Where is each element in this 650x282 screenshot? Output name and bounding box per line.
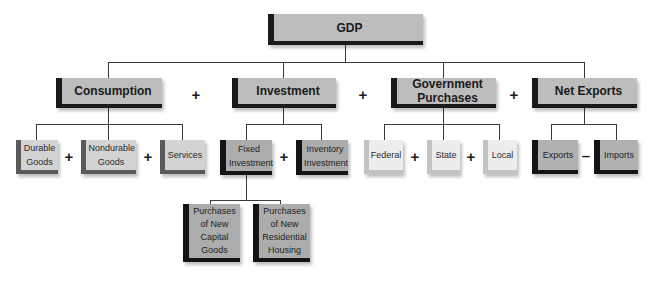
connector-netexports-up <box>584 62 585 78</box>
connector-level1-bar <box>108 62 585 63</box>
net-exports-label: Net Exports <box>555 84 622 98</box>
connector-government-down <box>443 108 444 124</box>
durable-goods-label: Durable Goods <box>24 141 56 169</box>
plus-operator: + <box>408 149 422 165</box>
connector-inventory-up <box>321 124 322 140</box>
services-label: Services <box>168 148 203 162</box>
connector-durable-up <box>36 124 37 140</box>
connector-government-up <box>443 62 444 78</box>
exports-label: Exports <box>543 148 574 162</box>
local-label: Local <box>492 148 514 162</box>
plus-operator: + <box>62 149 76 165</box>
net-exports-box: Net Exports <box>532 78 637 108</box>
connector-state-up <box>443 124 444 140</box>
connector-investment-bar <box>246 124 322 125</box>
connector-gdp-down <box>345 45 346 62</box>
residential-housing-box: Purchases of New Residential Housing <box>253 204 310 262</box>
services-box: Services <box>160 140 205 174</box>
gdp-label: GDP <box>336 21 362 35</box>
connector-imports-up <box>616 124 617 140</box>
plus-operator: + <box>507 87 521 103</box>
plus-operator: + <box>189 87 203 103</box>
connector-services-up <box>182 124 183 140</box>
plus-operator: + <box>277 149 291 165</box>
connector-local-up <box>499 124 500 140</box>
connector-federal-up <box>384 124 385 140</box>
connector-consumption-bar <box>36 124 183 125</box>
connector-consumption-down <box>108 108 109 124</box>
connector-investment-up <box>283 62 284 78</box>
connector-fixed-down <box>246 175 247 200</box>
connector-consumption-up <box>108 62 109 78</box>
investment-label: Investment <box>256 84 319 98</box>
inventory-investment-box: Inventory Investment <box>296 140 348 175</box>
gdp-box: GDP <box>268 14 423 45</box>
minus-operator: – <box>579 148 593 164</box>
consumption-box: Consumption <box>56 78 162 108</box>
durable-goods-box: Durable Goods <box>16 140 58 174</box>
fixed-investment-label: Fixed Investment <box>229 142 269 170</box>
plus-operator: + <box>356 87 370 103</box>
government-purchases-box: Government Purchases <box>391 78 496 108</box>
imports-label: Imports <box>604 148 634 162</box>
state-box: State <box>427 140 460 174</box>
fixed-investment-box: Fixed Investment <box>220 140 272 175</box>
federal-label: Federal <box>371 148 402 162</box>
government-purchases-label: Government Purchases <box>408 77 488 105</box>
residential-housing-label: Purchases of New Residential Housing <box>262 205 308 257</box>
exports-box: Exports <box>532 140 578 174</box>
nondurable-goods-label: Nondurable Goods <box>89 141 134 169</box>
connector-nondurable-up <box>108 124 109 140</box>
connector-fixed-up <box>246 124 247 140</box>
connector-fixed-bar <box>210 200 281 201</box>
plus-operator: + <box>464 149 478 165</box>
connector-netexports-down <box>584 108 585 124</box>
inventory-investment-label: Inventory Investment <box>304 142 346 170</box>
state-label: State <box>435 148 456 162</box>
nondurable-goods-box: Nondurable Goods <box>81 140 136 174</box>
connector-netexports-bar <box>551 124 617 125</box>
investment-box: Investment <box>232 78 336 108</box>
consumption-label: Consumption <box>74 84 151 98</box>
connector-exports-up <box>551 124 552 140</box>
federal-box: Federal <box>364 140 403 174</box>
capital-goods-box: Purchases of New Capital Goods <box>183 204 240 262</box>
local-box: Local <box>483 140 517 174</box>
connector-investment-down <box>283 108 284 124</box>
capital-goods-label: Purchases of New Capital Goods <box>193 205 237 257</box>
imports-box: Imports <box>594 140 638 174</box>
plus-operator: + <box>141 149 155 165</box>
connector-government-bar <box>384 124 500 125</box>
